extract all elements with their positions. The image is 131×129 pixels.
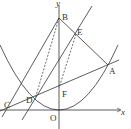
line-DE <box>22 6 92 120</box>
point-label-F: F <box>62 89 67 99</box>
x-axis-label: x <box>120 107 125 117</box>
y-axis-label: y <box>55 0 60 8</box>
origin-label: O <box>50 113 57 123</box>
geometry-diagram: y x O B E A F D C <box>0 0 131 129</box>
line-BA <box>59 18 108 65</box>
point-label-A: A <box>109 66 116 76</box>
point-label-D: D <box>26 95 33 105</box>
point-label-E: E <box>77 27 83 37</box>
point-label-C: C <box>4 100 10 110</box>
point-label-B: B <box>62 12 68 22</box>
lines <box>0 6 119 120</box>
